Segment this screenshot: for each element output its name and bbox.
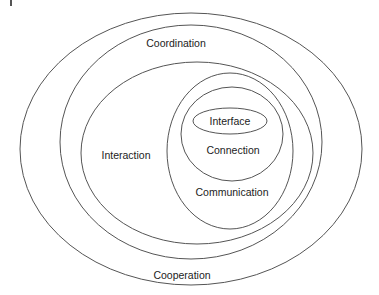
label-connection: Connection	[206, 144, 259, 156]
label-interaction: Interaction	[101, 149, 150, 161]
label-communication: Communication	[196, 186, 269, 198]
label-interface: Interface	[210, 115, 251, 127]
label-coordination: Coordination	[146, 37, 206, 49]
label-cooperation: Cooperation	[153, 269, 210, 281]
